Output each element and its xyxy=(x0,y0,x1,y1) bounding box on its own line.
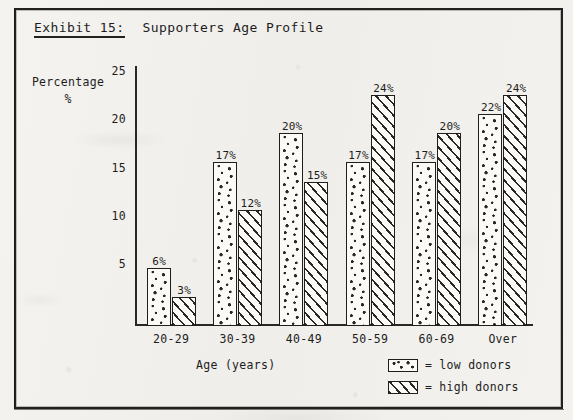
bar-value-label: 20% xyxy=(440,120,460,133)
legend-swatch-dotted-icon xyxy=(388,359,418,372)
x-tick-label: 20-29 xyxy=(153,332,189,346)
x-tick-label: 60-69 xyxy=(418,332,454,346)
chart-legend: = low donors = high donors xyxy=(388,358,519,394)
legend-swatch-hatch-icon xyxy=(388,381,418,394)
exhibit-number-label: Exhibit 15: xyxy=(34,20,125,38)
bar-value-label: 24% xyxy=(373,82,393,95)
x-tick-label: 30-39 xyxy=(219,332,255,346)
bar-high-donors: 20% xyxy=(437,133,461,326)
exhibit-title-row: Exhibit 15: Supporters Age Profile xyxy=(34,20,324,38)
legend-label-high-donors: high donors xyxy=(439,380,518,394)
bar-high-donors: 12% xyxy=(238,210,262,326)
bar-group: 22%24%Over xyxy=(478,95,527,326)
chart-plot-area: 510152025 6%3%20-2917%12%30-3920%15%40-4… xyxy=(135,66,533,326)
bar-value-label: 3% xyxy=(177,284,191,297)
bar-value-label: 12% xyxy=(241,197,261,210)
legend-label-low-donors: low donors xyxy=(439,358,511,372)
y-tick-label: 20 xyxy=(112,112,126,126)
y-axis-label-line1: Percentage xyxy=(32,75,104,89)
bar-value-label: 22% xyxy=(481,101,501,114)
bar-low-donors: 20% xyxy=(279,133,303,326)
y-axis-label-line2: % xyxy=(64,92,71,106)
legend-item-high-donors: = high donors xyxy=(388,380,519,394)
bar-value-label: 20% xyxy=(282,120,302,133)
x-tick-label: 40-49 xyxy=(286,332,322,346)
bar-low-donors: 6% xyxy=(147,268,171,326)
bar-group: 17%12%30-39 xyxy=(213,162,262,326)
bar-low-donors: 17% xyxy=(346,162,370,326)
x-tick-label: Over xyxy=(488,332,517,346)
x-axis-title: Age (years) xyxy=(196,358,275,372)
legend-item-low-donors: = low donors xyxy=(388,358,519,372)
y-axis-line xyxy=(135,66,137,326)
bar-value-label: 17% xyxy=(216,149,236,162)
legend-equals-sign: = xyxy=(425,358,432,372)
y-tick-label: 10 xyxy=(112,208,126,222)
y-tick-label: 5 xyxy=(119,257,126,271)
bar-group: 20%15%40-49 xyxy=(279,133,328,326)
bar-value-label: 15% xyxy=(307,169,327,182)
bar-group: 17%24%50-59 xyxy=(346,95,395,326)
y-tick-label: 15 xyxy=(112,160,126,174)
bar-high-donors: 15% xyxy=(304,182,328,326)
legend-equals-sign: = xyxy=(425,380,432,394)
x-tick-label: 50-59 xyxy=(352,332,388,346)
bar-high-donors: 24% xyxy=(371,95,395,326)
bar-value-label: 17% xyxy=(348,149,368,162)
bar-low-donors: 17% xyxy=(412,162,436,326)
bar-high-donors: 24% xyxy=(503,95,527,326)
page-title: Supporters Age Profile xyxy=(143,20,324,35)
bar-group: 17%20%60-69 xyxy=(412,133,461,326)
y-axis-label: Percentage % xyxy=(22,74,114,107)
bar-value-label: 17% xyxy=(415,149,435,162)
bar-low-donors: 22% xyxy=(478,114,502,326)
y-tick-label: 25 xyxy=(112,64,126,78)
bar-low-donors: 17% xyxy=(213,162,237,326)
bar-group: 6%3%20-29 xyxy=(147,268,196,326)
bar-value-label: 6% xyxy=(152,255,166,268)
bar-value-label: 24% xyxy=(506,82,526,95)
bar-high-donors: 3% xyxy=(172,297,196,326)
